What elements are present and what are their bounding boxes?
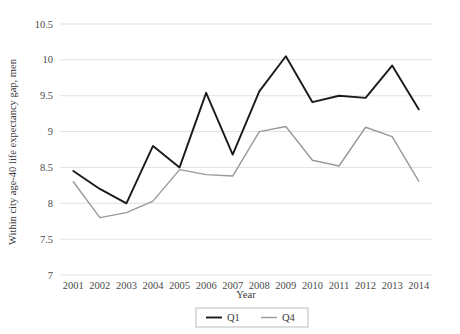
y-axis-tick-label: 8.5 [40, 162, 53, 173]
x-axis-tick-label: 2013 [382, 280, 403, 291]
line-chart: 77.588.599.51010.5 200120022003200420052… [0, 0, 460, 334]
chart-legend: Q1Q4 [196, 308, 308, 327]
legend-label-q1[interactable]: Q1 [227, 312, 240, 323]
x-axis-tick-label: 2009 [275, 280, 296, 291]
y-axis-tick-label: 7 [48, 270, 53, 281]
x-axis-tick-label: 2003 [116, 280, 137, 291]
y-axis-tick-label: 10.5 [35, 19, 53, 30]
x-axis-tick-label: 2005 [169, 280, 190, 291]
x-axis-tick-label: 2002 [89, 280, 110, 291]
data-series [73, 56, 418, 217]
y-axis-tick-label: 9 [48, 126, 53, 137]
chart-plot-area: 77.588.599.51010.5 200120022003200420052… [0, 0, 460, 334]
x-axis-tick-label: 2012 [355, 280, 376, 291]
y-axis-tick-label: 10 [43, 54, 54, 65]
y-axis-tick-label: 9.5 [40, 90, 53, 101]
gridlines [60, 24, 432, 275]
x-axis-title: Year [236, 289, 256, 300]
x-axis-tick-label: 2006 [196, 280, 217, 291]
y-axis-title: Within city age-40 life expectancy gap, … [7, 58, 18, 245]
x-axis-tick-label: 2011 [329, 280, 350, 291]
x-axis-tick-label: 2001 [63, 280, 84, 291]
y-axis-tick-labels: 77.588.599.51010.5 [35, 19, 53, 281]
x-axis-tick-label: 2004 [143, 280, 165, 291]
series-line-q1 [73, 56, 418, 203]
series-line-q4 [73, 127, 418, 218]
y-axis-tick-label: 7.5 [40, 234, 53, 245]
y-axis-tick-label: 8 [48, 198, 53, 209]
x-axis-tick-label: 2014 [408, 280, 430, 291]
x-axis-tick-label: 2010 [302, 280, 323, 291]
legend-label-q4[interactable]: Q4 [282, 312, 296, 323]
